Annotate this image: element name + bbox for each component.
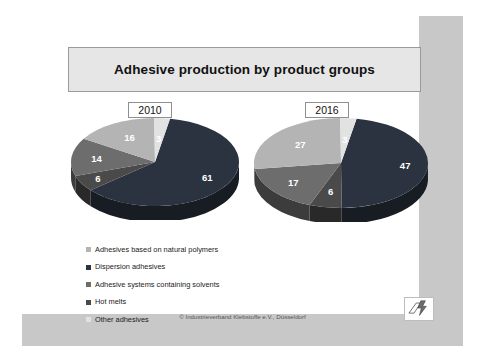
legend-item: Dispersion adhesives xyxy=(86,261,316,274)
pie-slice-value-label: 16 xyxy=(124,132,135,143)
pie-slice-value-label: 14 xyxy=(91,153,102,164)
legend-item-label: Hot melts xyxy=(95,298,126,305)
pie-slice-value-label: 6 xyxy=(95,173,100,184)
legend-item: Adhesives based on natural polymers xyxy=(86,243,316,256)
slide-canvas: Adhesive production by product groups 20… xyxy=(0,0,485,362)
pie-chart-svg: 61614163 xyxy=(70,118,240,220)
industrieverband-klebstoffe-logo-icon xyxy=(404,297,434,321)
pie-slice-value-label: 27 xyxy=(295,139,306,150)
legend-color-swatch-icon xyxy=(86,265,91,270)
pie-slice-value-label: 47 xyxy=(400,160,411,171)
legend-color-swatch-icon xyxy=(86,282,91,287)
legend-color-swatch-icon xyxy=(86,247,91,252)
pie-chart-svg: 47617273 xyxy=(253,118,429,222)
legend-item-label: Dispersion adhesives xyxy=(95,263,165,270)
chart-year-label-left: 2010 xyxy=(128,102,172,118)
pie-chart-2010: 61614163 xyxy=(70,118,240,220)
slide-title-box: Adhesive production by product groups xyxy=(68,47,421,92)
page-title: Adhesive production by product groups xyxy=(114,62,375,77)
pie-slice-value-label: 17 xyxy=(288,177,299,188)
pie-chart-2016: 47617273 xyxy=(253,118,429,222)
legend-item: Hot melts xyxy=(86,296,316,309)
legend-item: Adhesive systems containing solvents xyxy=(86,278,316,291)
pie-slice-value-label: 61 xyxy=(202,172,213,183)
legend-color-swatch-icon xyxy=(86,300,91,305)
legend-item-label: Adhesives based on natural polymers xyxy=(95,246,218,253)
legend-item-label: Adhesive systems containing solvents xyxy=(95,281,219,288)
pie-slice-value-label: 3 xyxy=(342,134,347,145)
chart-year-label-right: 2016 xyxy=(305,102,349,118)
pie-slice-value-label: 3 xyxy=(156,133,161,144)
pie-slice-value-label: 6 xyxy=(328,186,333,197)
